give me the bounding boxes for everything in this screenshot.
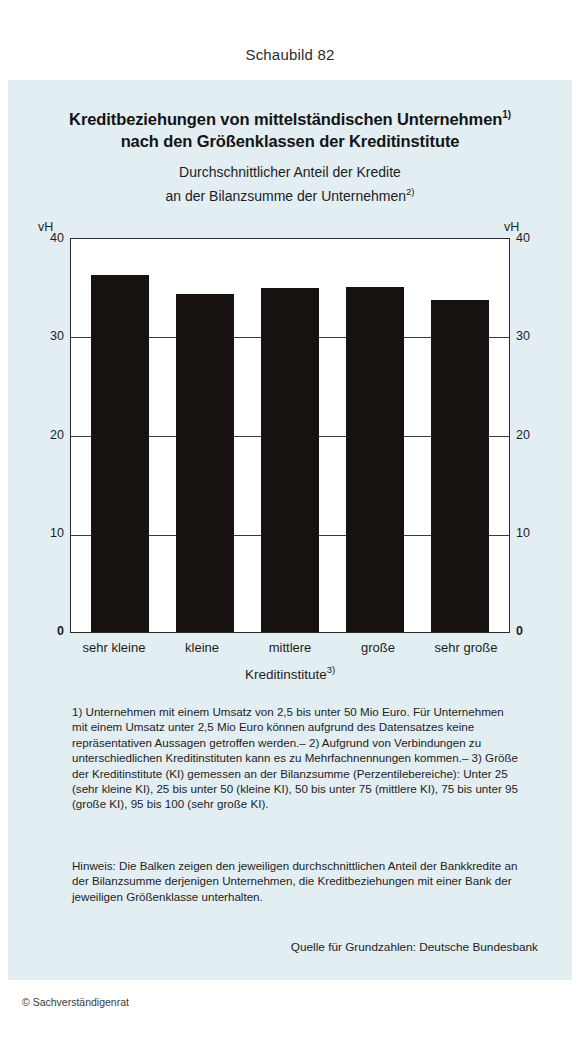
plot-frame (70, 238, 510, 633)
y-tick-right-40: 40 (516, 231, 550, 245)
bar-große (346, 287, 404, 632)
footnotes-block: 1) Unternehmen mit einem Umsatz von 2,5 … (72, 704, 518, 812)
chart-panel: Kreditbeziehungen von mittelständischen … (8, 80, 572, 980)
note-block: Hinweis: Die Balken zeigen den jeweilige… (72, 858, 518, 904)
y-tick-left-40: 40 (30, 231, 64, 245)
y-tick-left-0: 0 (30, 624, 64, 638)
source-line: Quelle für Grundzahlen: Deutsche Bundesb… (8, 940, 538, 954)
bar-mittlere (261, 288, 319, 632)
y-tick-right-0: 0 (516, 624, 550, 638)
y-tick-left-10: 10 (30, 526, 64, 540)
y-tick-right-30: 30 (516, 329, 550, 343)
x-axis-category-labels: sehr kleinekleinemittleregroßesehr große (70, 640, 510, 655)
chart-title: Kreditbeziehungen von mittelständischen … (8, 104, 572, 152)
chart-title-line1: Kreditbeziehungen von mittelständischen … (69, 110, 502, 128)
x-axis-title: Kreditinstitute3) (8, 664, 572, 682)
chart-subtitle-line2: an der Bilanzsumme der Unternehmen (166, 188, 406, 204)
bar-series (71, 239, 509, 632)
page-root: Schaubild 82 Kreditbeziehungen von mitte… (0, 0, 580, 1061)
x-label-mittlere: mittlere (247, 640, 333, 655)
y-tick-left-20: 20 (30, 428, 64, 442)
x-label-sehr-kleine: sehr kleine (71, 640, 157, 655)
chart-subtitle-line1: Durchschnittlicher Anteil der Kredite (179, 164, 401, 180)
y-tick-right-10: 10 (516, 526, 550, 540)
chart-area: vH vH 40 30 20 10 0 40 30 20 10 0 sehr k… (8, 220, 572, 680)
x-label-sehr-große: sehr große (423, 640, 509, 655)
chart-subtitle: Durchschnittlicher Anteil der Kredite an… (8, 162, 572, 206)
chart-title-line2: nach den Größenklassen der Kreditinstitu… (121, 132, 460, 150)
y-tick-left-30: 30 (30, 329, 64, 343)
y-tick-right-20: 20 (516, 428, 550, 442)
bar-sehr-große (431, 300, 489, 632)
bar-kleine (176, 294, 234, 632)
x-label-große: große (335, 640, 421, 655)
chart-title-footnote-marker-1: 1) (502, 109, 511, 120)
x-axis-title-text: Kreditinstitute (245, 667, 327, 682)
x-label-kleine: kleine (159, 640, 245, 655)
copyright-line: © Sachverständigenrat (22, 996, 129, 1008)
x-axis-footnote-marker-3: 3) (327, 664, 335, 675)
chart-subtitle-footnote-marker-2: 2) (406, 186, 414, 197)
bar-sehr-kleine (91, 275, 149, 632)
figure-number: Schaubild 82 (0, 46, 580, 63)
